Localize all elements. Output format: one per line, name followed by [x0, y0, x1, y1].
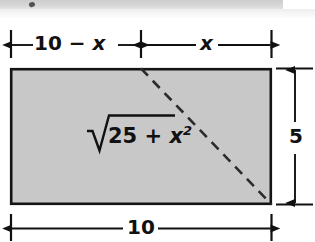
- dimension-top-left-operator: −: [69, 31, 86, 55]
- dimension-top-left-number: 10: [34, 31, 62, 55]
- dimension-label-bottom: 10: [127, 217, 155, 237]
- radicand-exponent: 2: [183, 123, 192, 138]
- dimension-top-left-variable: x: [93, 31, 106, 55]
- dimension-label-top-left: 10 − x: [34, 33, 105, 53]
- radicand-number: 25: [108, 124, 137, 148]
- radicand-variable: x: [169, 124, 183, 148]
- dimension-label-top-right: x: [200, 33, 213, 53]
- radicand-text: 25 + x2: [108, 124, 192, 147]
- dimension-label-right: 5: [289, 126, 303, 146]
- radicand-operator: +: [145, 124, 163, 148]
- figure-canvas: 10 − x x 10 5 25 + x2: [0, 0, 315, 242]
